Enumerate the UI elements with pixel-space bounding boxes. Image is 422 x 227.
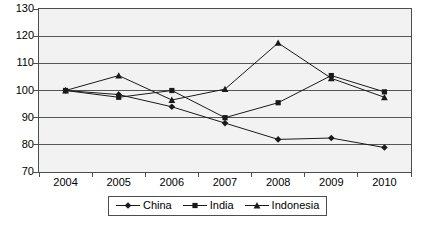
data-point-indonesia bbox=[115, 72, 122, 78]
data-point-india bbox=[382, 89, 387, 94]
y-axis-tick-label: 130 bbox=[2, 3, 34, 14]
y-axis: 708090100110120130 bbox=[0, 8, 34, 173]
data-point-india bbox=[276, 100, 281, 105]
chart-legend: ChinaIndiaIndonesia bbox=[108, 196, 327, 216]
y-axis-tick-label: 90 bbox=[2, 112, 34, 123]
y-axis-tick-label: 80 bbox=[2, 139, 34, 150]
data-point-china bbox=[222, 120, 229, 127]
data-point-india bbox=[116, 95, 121, 100]
legend-entry-indonesia[interactable]: Indonesia bbox=[245, 199, 320, 212]
x-axis: 2004200520062007200820092010 bbox=[38, 176, 412, 192]
legend-point bbox=[125, 202, 132, 209]
data-point-indonesia bbox=[381, 94, 388, 100]
data-point-china bbox=[328, 135, 335, 142]
data-point-india bbox=[222, 115, 227, 120]
legend-label: India bbox=[210, 199, 234, 212]
line-chart: 708090100110120130 200420052006200720082… bbox=[0, 0, 422, 227]
series-line-india bbox=[66, 76, 385, 118]
y-axis-tick-label: 70 bbox=[2, 166, 34, 177]
legend-point bbox=[192, 203, 197, 208]
data-point-china bbox=[275, 136, 282, 143]
data-point-india bbox=[169, 88, 174, 93]
x-axis-ticks bbox=[38, 172, 412, 178]
legend-label: China bbox=[143, 199, 172, 212]
legend-marker-diamond-icon bbox=[116, 200, 140, 211]
legend-marker-square-icon bbox=[183, 200, 207, 211]
legend-marker-triangle-icon bbox=[245, 200, 269, 211]
y-axis-tick-label: 120 bbox=[2, 30, 34, 41]
legend-label: Indonesia bbox=[272, 199, 320, 212]
plot-svg bbox=[39, 9, 411, 172]
y-axis-tick-label: 110 bbox=[2, 57, 34, 68]
y-axis-tick-label: 100 bbox=[2, 85, 34, 96]
data-point-china bbox=[169, 104, 176, 111]
y-axis-ticks bbox=[33, 8, 39, 173]
legend-entry-china[interactable]: China bbox=[116, 199, 172, 212]
plot-area bbox=[38, 8, 412, 173]
legend-entry-india[interactable]: India bbox=[183, 199, 234, 212]
data-point-indonesia bbox=[275, 40, 282, 46]
